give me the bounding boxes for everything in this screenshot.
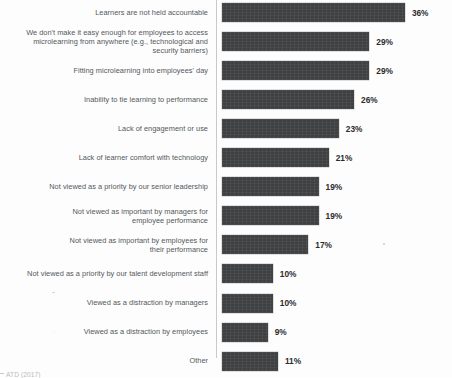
category-label: Fitting microlearning into employees' da… bbox=[2, 66, 208, 75]
bar-row: Not viewed as a priority by our senior l… bbox=[0, 177, 452, 196]
bar-fill bbox=[222, 148, 329, 167]
bar bbox=[222, 235, 308, 254]
bar-value-label: 17% bbox=[315, 240, 332, 250]
bar-fill bbox=[222, 264, 273, 283]
bar-value-label: 19% bbox=[326, 182, 343, 192]
bar bbox=[222, 32, 369, 51]
bar bbox=[222, 352, 278, 371]
category-label: Lack of engagement or use bbox=[2, 124, 208, 133]
source-bullet-icon bbox=[0, 373, 4, 374]
bar bbox=[222, 119, 339, 138]
bar-row: Other11% bbox=[0, 352, 452, 371]
bar-row: Viewed as a distraction by managers10% bbox=[0, 294, 452, 313]
plot-area: Learners are not held accountable36%We d… bbox=[0, 0, 452, 360]
category-label: Viewed as a distraction by employees bbox=[2, 327, 208, 336]
bar-fill bbox=[222, 235, 308, 254]
bar-row: Not viewed as important by managers for … bbox=[0, 206, 452, 225]
category-label: Not viewed as important by managers for … bbox=[2, 207, 208, 226]
bar-value-label: 23% bbox=[346, 124, 363, 134]
bar-value-label: 10% bbox=[280, 269, 297, 279]
category-label: We don't make it easy enough for employe… bbox=[2, 28, 208, 56]
bar-row: Learners are not held accountable36% bbox=[0, 3, 452, 22]
category-label: Not viewed as important by employees for… bbox=[2, 236, 208, 255]
bar-fill bbox=[222, 90, 354, 109]
bar-value-label: 9% bbox=[275, 327, 287, 337]
category-label: Not viewed as a priority by our talent d… bbox=[2, 269, 208, 278]
bar-fill bbox=[222, 177, 319, 196]
bar-fill bbox=[222, 3, 405, 22]
bar-value-label: 10% bbox=[280, 298, 297, 308]
bar bbox=[222, 264, 273, 283]
scan-speck bbox=[52, 292, 55, 293]
category-label: Viewed as a distraction by managers bbox=[2, 298, 208, 307]
category-label: Learners are not held accountable bbox=[2, 8, 208, 17]
bar bbox=[222, 61, 369, 80]
bar-value-label: 36% bbox=[412, 8, 429, 18]
bar-fill bbox=[222, 32, 369, 51]
bar bbox=[222, 3, 405, 22]
bar-row: Fitting microlearning into employees' da… bbox=[0, 61, 452, 80]
bar-fill bbox=[222, 61, 369, 80]
bar bbox=[222, 177, 319, 196]
bar bbox=[222, 206, 319, 225]
bar bbox=[222, 323, 268, 342]
bar-row: We don't make it easy enough for employe… bbox=[0, 32, 452, 51]
bar-fill bbox=[222, 323, 268, 342]
category-label: Inability to tie learning to performance bbox=[2, 95, 208, 104]
bar-fill bbox=[222, 294, 273, 313]
category-label: Lack of learner comfort with technology bbox=[2, 153, 208, 162]
bar-fill bbox=[222, 206, 319, 225]
bar-value-label: 29% bbox=[376, 37, 393, 47]
bar-value-label: 21% bbox=[336, 153, 353, 163]
bar bbox=[222, 90, 354, 109]
bar-value-label: 19% bbox=[326, 211, 343, 221]
bar-value-label: 11% bbox=[285, 356, 301, 366]
bar bbox=[222, 148, 329, 167]
bar-row: Lack of learner comfort with technology2… bbox=[0, 148, 452, 167]
bar-row: Inability to tie learning to performance… bbox=[0, 90, 452, 109]
category-label: Not viewed as a priority by our senior l… bbox=[2, 182, 208, 191]
bar-value-label: 26% bbox=[361, 95, 378, 105]
category-label: Other bbox=[2, 356, 208, 365]
bar bbox=[222, 294, 273, 313]
source-note: ATD (2017) bbox=[6, 371, 41, 378]
bar-fill bbox=[222, 119, 339, 138]
bar-row: Lack of engagement or use23% bbox=[0, 119, 452, 138]
scan-speck bbox=[383, 243, 385, 245]
bar-value-label: 29% bbox=[376, 66, 393, 76]
bar-row: Not viewed as a priority by our talent d… bbox=[0, 264, 452, 283]
bar-row: Viewed as a distraction by employees9% bbox=[0, 323, 452, 342]
bar-fill bbox=[222, 352, 278, 371]
